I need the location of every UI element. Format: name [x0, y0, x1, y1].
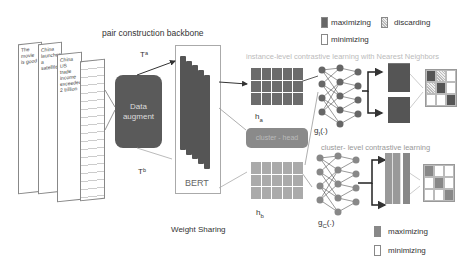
- cluster-level-title: cluster- level contrastive learning: [321, 143, 430, 152]
- legend-minimizing-swatch: [321, 34, 328, 45]
- cluster-output-b: [403, 153, 410, 204]
- hb-label: hb: [256, 208, 264, 219]
- legend-minimizing-label: minimizing: [331, 35, 369, 44]
- gc-label: gC(.): [318, 218, 334, 229]
- cluster-output-a: [385, 153, 401, 204]
- ha-label: ha: [255, 112, 263, 123]
- ha-grid: [251, 68, 303, 105]
- instance-output-b: [388, 97, 410, 123]
- hb-grid: [251, 162, 303, 199]
- instance-level-title: instance-level contrastive learning with…: [246, 52, 439, 61]
- legend-bottom-minimizing-label: minimizing: [388, 246, 426, 255]
- legend-maximizing-label: maximizing: [331, 18, 371, 27]
- legend-bottom-minimizing-swatch: [374, 245, 381, 256]
- legend-bottom-maximizing-swatch: [374, 226, 381, 237]
- cluster-similarity-matrix: [423, 164, 455, 202]
- cluster-head-block: cluster - head: [246, 128, 308, 148]
- legend-bottom-maximizing-label: maximizing: [388, 227, 428, 236]
- hatch-fill: [382, 18, 387, 27]
- instance-similarity-matrix: [425, 69, 457, 107]
- gi-label: gI(.): [314, 126, 328, 137]
- instance-output-a: [388, 63, 410, 92]
- legend-discarding-label: discarding: [394, 18, 430, 27]
- legend-maximizing-swatch: [321, 17, 328, 28]
